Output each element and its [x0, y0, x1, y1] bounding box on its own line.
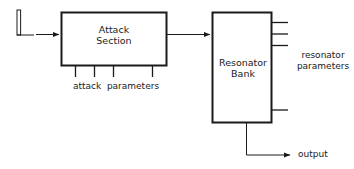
output-arrow	[247, 123, 291, 155]
attack-section-label-line1: Attack	[99, 24, 129, 35]
attack-section-label-line2: Section	[96, 35, 131, 46]
resonator-bank-label: ResonatorBank	[214, 57, 272, 79]
output-label: output	[298, 149, 328, 160]
diagram-vector-layer	[0, 0, 354, 169]
attack-parameter-ports	[76, 66, 153, 77]
resonator-bank-label-line2: Bank	[231, 68, 255, 79]
resonator-parameters-label-line2: parameters	[297, 61, 349, 71]
resonator-parameters-label-line1: resonator	[301, 50, 344, 60]
resonator-parameter-ports	[272, 23, 288, 111]
resonator-parameters-label: resonatorparameters	[292, 50, 354, 71]
resonator-bank-label-line1: Resonator	[219, 57, 267, 68]
signal-flow-diagram: AttackSection ResonatorBank attack param…	[0, 0, 354, 169]
impulse-waveform-icon	[17, 10, 34, 35]
attack-parameters-label: attack parameters	[62, 81, 170, 92]
attack-section-label: AttackSection	[78, 24, 150, 46]
